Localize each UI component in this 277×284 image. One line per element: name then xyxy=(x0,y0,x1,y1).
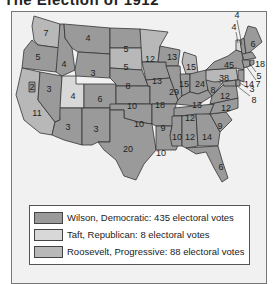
label-OH: 24 xyxy=(195,79,205,89)
label-MD: 8 xyxy=(251,95,256,105)
label-CA_N: 2 xyxy=(29,82,34,92)
label-MI: 15 xyxy=(186,62,196,72)
label-DE: 3 xyxy=(249,84,254,94)
label-GA: 14 xyxy=(202,132,212,142)
label-CT: 7 xyxy=(255,79,260,89)
label-TX: 20 xyxy=(123,144,133,154)
label-MA: 18 xyxy=(255,59,265,69)
label-ND: 5 xyxy=(123,44,128,54)
label-IL: 29 xyxy=(169,87,179,97)
label-SD: 5 xyxy=(123,62,128,72)
label-KY: 13 xyxy=(192,100,202,110)
state-DE xyxy=(236,80,240,86)
label-NE: 8 xyxy=(125,81,130,91)
label-WI: 13 xyxy=(167,52,177,62)
label-KS: 10 xyxy=(127,101,137,111)
label-AL: 12 xyxy=(185,132,195,142)
legend-item-taft: Taft, Republican: 8 electoral votes xyxy=(34,226,245,243)
label-MS: 10 xyxy=(172,132,182,142)
label-AZ: 3 xyxy=(65,122,70,132)
legend-item-roosevelt: Roosevelt, Progressive: 88 electoral vot… xyxy=(34,243,245,260)
label-MT: 4 xyxy=(85,33,90,43)
legend-label-taft: Taft, Republican: 8 electoral votes xyxy=(67,229,210,240)
label-VT: 4 xyxy=(231,22,236,32)
label-UT: 4 xyxy=(70,91,75,101)
label-NH: 4 xyxy=(234,10,239,20)
label-LA: 10 xyxy=(156,148,166,158)
legend-label-roosevelt: Roosevelt, Progressive: 88 electoral vot… xyxy=(67,246,244,257)
label-FL: 6 xyxy=(218,162,223,172)
label-ID: 4 xyxy=(61,59,66,69)
label-IN: 15 xyxy=(179,79,189,89)
label-SC: 9 xyxy=(217,121,222,131)
label-PA: 38 xyxy=(219,73,229,83)
legend: Wilson, Democratic: 435 electoral votes … xyxy=(29,205,250,265)
label-VA: 12 xyxy=(220,91,230,101)
label-CO: 6 xyxy=(97,94,102,104)
label-TN: 12 xyxy=(185,113,195,123)
label-WA: 7 xyxy=(43,28,48,38)
label-AR: 9 xyxy=(160,123,165,133)
label-NV: 3 xyxy=(46,84,51,94)
label-CA: 11 xyxy=(32,108,41,118)
legend-swatch-wilson xyxy=(34,212,63,224)
label-MO: 18 xyxy=(155,100,165,110)
label-OR: 5 xyxy=(35,52,40,62)
legend-swatch-taft xyxy=(34,229,63,241)
label-ME: 6 xyxy=(250,39,255,49)
legend-item-wilson: Wilson, Democratic: 435 electoral votes xyxy=(34,209,245,226)
legend-label-wilson: Wilson, Democratic: 435 electoral votes xyxy=(67,212,234,223)
state-MA xyxy=(242,52,256,60)
legend-swatch-roosevelt xyxy=(34,246,63,258)
label-WY: 3 xyxy=(90,68,95,78)
label-NY: 45 xyxy=(224,60,234,70)
label-WV: 8 xyxy=(210,85,215,95)
label-OK: 10 xyxy=(134,119,144,129)
label-MN: 12 xyxy=(145,54,155,64)
label-NC: 12 xyxy=(221,103,231,113)
label-NM: 3 xyxy=(93,124,98,134)
label-IA: 13 xyxy=(152,76,162,86)
